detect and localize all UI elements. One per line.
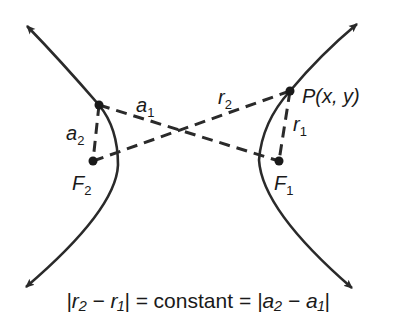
hyperbola-right-branch-lower [259,91,352,288]
equation-middle: constant [154,289,234,312]
label-f1: F1 [274,172,293,198]
segment-a1 [99,105,279,161]
segment-a2 [93,105,99,161]
label-f2: F2 [72,172,91,198]
point-vertex-left [95,101,104,110]
equation: |r₂ − r₁| = constant = |a₂ − a₁| [66,289,330,312]
equation-right: = |a₂ − a₁| [233,289,330,312]
point-f1 [275,157,284,166]
label-a2: a2 [66,122,84,148]
equation-left: |r₂ − r₁| = [66,289,153,312]
label-r2: r2 [218,86,232,112]
label-point-p: P(x, y) [302,85,360,107]
point-f2 [89,157,98,166]
hyperbola-left-branch [27,26,99,105]
label-r1: r1 [293,113,307,139]
hyperbola-right-branch [290,24,357,91]
point-p [286,87,295,96]
hyperbola-diagram: a1 a2 r2 r1 P(x, y) F2 F1 |r₂ − r₁| = co… [0,0,396,328]
